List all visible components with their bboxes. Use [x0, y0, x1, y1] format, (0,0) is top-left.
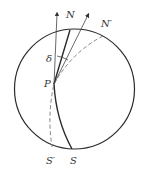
label-delta: δ: [46, 53, 52, 64]
label-S: S: [70, 155, 77, 166]
meridian-arc-NS: [54, 30, 72, 149]
dashed-arc-N-prime-S-prime: [50, 36, 103, 147]
label-S-prime: S′: [46, 155, 56, 166]
label-N-prime: N′: [100, 18, 113, 29]
celestial-sphere-diagram: N N′ δ P S′ S: [0, 0, 145, 172]
slanted-arrow: [54, 15, 88, 84]
label-N: N: [65, 9, 76, 20]
label-P: P: [43, 78, 51, 89]
sphere-circle: [15, 29, 135, 149]
